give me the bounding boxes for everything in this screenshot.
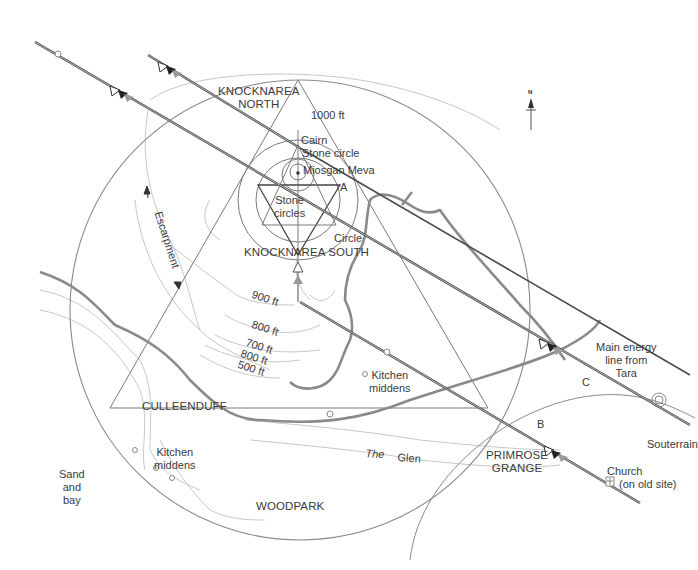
label-kitchen-middens-north: Kitchen middens [369, 369, 411, 395]
label-stone-circles: Stone circles [274, 194, 305, 220]
label-souterrain: Souterrain [647, 438, 698, 451]
north-label: N [528, 89, 532, 95]
label-line: middens [154, 459, 196, 472]
label-line: and [59, 481, 85, 494]
label-line: Kitchen [369, 369, 411, 382]
place-culleenduff: CULLEENDUFF [142, 400, 227, 413]
label-line: Kitchen [154, 446, 196, 459]
place-woodpark: WOODPARK [256, 500, 324, 513]
label-line: KNOCKNAREA [218, 85, 300, 98]
place-primrose-grange: PRIMROSE GRANGE [486, 449, 548, 475]
label-line: circles [274, 207, 305, 220]
label-point-c: C [582, 376, 590, 389]
label-stone-circle: Stone circle [302, 147, 359, 160]
label-church-note: (on old site) [619, 478, 676, 491]
energy-lines [35, 42, 690, 503]
label-church: Church [607, 465, 642, 478]
label-circle: Circle [334, 232, 362, 245]
label-point-a: A [340, 181, 347, 194]
label-point-b: B [537, 418, 544, 431]
label-the-glen-1: The [365, 447, 385, 461]
contour-lines [40, 74, 560, 520]
label-line: Sand [59, 468, 85, 481]
label-line: Stone [274, 194, 305, 207]
place-knocknarea-south: KNOCKNAREA SOUTH [244, 246, 369, 259]
label-line: Tara [596, 367, 657, 380]
label-line: middens [369, 382, 411, 395]
label-main-energy-line: Main energy line from Tara [596, 341, 657, 380]
label-miosgan-meva: Miosgan Meva [303, 164, 375, 177]
label-line: Main energy [596, 341, 657, 354]
label-cairn: Cairn [301, 134, 327, 147]
roads [40, 192, 600, 422]
north-arrow-icon [526, 98, 536, 130]
place-knocknarea-north: KNOCKNAREA NORTH [218, 85, 300, 111]
label-kitchen-middens-south: Kitchen middens [154, 446, 196, 472]
label-line: NORTH [218, 98, 300, 111]
label-the-glen-2: Glen [397, 451, 421, 466]
label-sand-and-bay: Sand and bay [59, 468, 85, 507]
label-line: line from [596, 354, 657, 367]
label-line: PRIMROSE [486, 449, 548, 462]
label-line: GRANGE [486, 462, 548, 475]
contour-1000ft: 1000 ft [311, 109, 345, 122]
label-line: bay [59, 494, 85, 507]
